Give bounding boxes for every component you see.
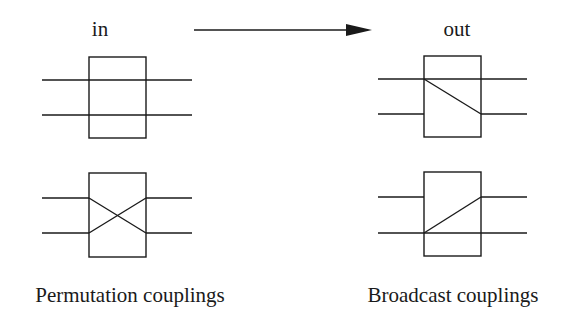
coupling-box	[424, 172, 481, 256]
broadcast-branch	[424, 197, 481, 233]
permutation-identity-coupling	[42, 57, 192, 138]
coupling-diagram: in out Permutation couplings B	[0, 0, 576, 323]
broadcast-bottom-coupling	[378, 172, 527, 256]
broadcast-caption: Broadcast couplings	[368, 283, 539, 307]
permutation-caption: Permutation couplings	[35, 283, 225, 307]
input-label: in	[92, 17, 109, 41]
transform-arrow	[194, 24, 372, 36]
output-label: out	[444, 17, 471, 41]
coupling-box	[89, 57, 146, 138]
broadcast-branch	[424, 79, 481, 114]
permutation-swap-coupling	[42, 173, 192, 257]
arrowhead-icon	[346, 24, 372, 36]
broadcast-top-coupling	[378, 56, 527, 137]
